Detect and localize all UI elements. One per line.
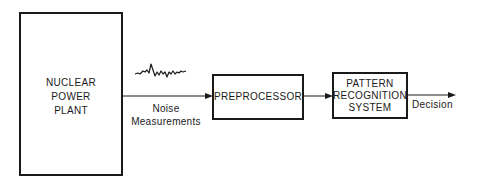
arrow-head-icon	[448, 92, 456, 98]
edge-pattern-to-decision: Decision	[407, 92, 456, 110]
edge-label-decision: Decision	[412, 99, 453, 110]
plant-label-line-2: POWER	[51, 91, 90, 102]
arrow-head-icon	[325, 93, 333, 99]
pattern-label-line-2: RECOGNITION	[333, 90, 407, 101]
edge-label-measurements: Measurements	[131, 116, 201, 127]
plant-label-line-1: NUCLEAR	[46, 77, 96, 88]
node-preprocessor: PREPROCESSOR	[213, 75, 303, 119]
node-pattern-recognition-system: PATTERN RECOGNITION SYSTEM	[333, 73, 407, 118]
edge-preprocessor-to-pattern	[303, 93, 333, 99]
edge-plant-to-preprocessor: Noise Measurements	[122, 93, 213, 127]
block-diagram: NUCLEAR POWER PLANT Noise Measurements P…	[0, 0, 477, 187]
arrow-head-icon	[205, 93, 213, 99]
preprocessor-label: PREPROCESSOR	[214, 91, 302, 102]
pattern-label-line-3: SYSTEM	[349, 102, 392, 113]
noise-waveform-icon	[135, 64, 186, 77]
node-nuclear-power-plant: NUCLEAR POWER PLANT	[20, 13, 122, 175]
plant-label-line-3: PLANT	[54, 105, 88, 116]
pattern-label-line-1: PATTERN	[346, 78, 393, 89]
edge-label-noise: Noise	[152, 103, 179, 114]
